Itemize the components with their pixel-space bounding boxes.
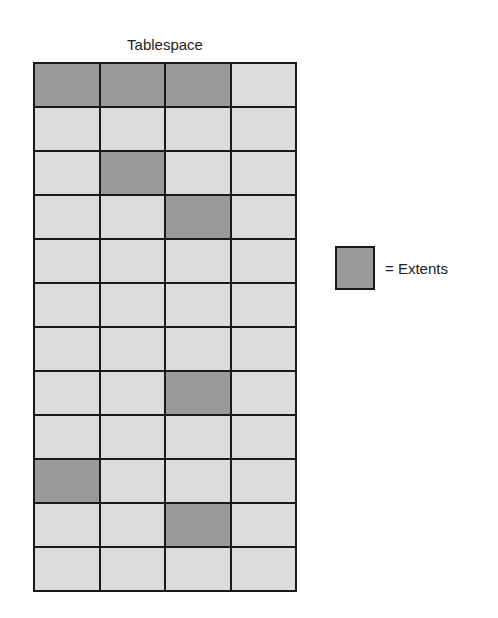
extent-cell: [166, 64, 230, 106]
empty-cell: [166, 152, 230, 194]
empty-cell: [166, 416, 230, 458]
empty-cell: [232, 416, 296, 458]
empty-cell: [232, 64, 296, 106]
extent-cell: [166, 504, 230, 546]
extent-swatch: [335, 246, 375, 290]
empty-cell: [232, 548, 296, 590]
empty-cell: [232, 504, 296, 546]
empty-cell: [101, 196, 165, 238]
empty-cell: [35, 108, 99, 150]
empty-cell: [101, 548, 165, 590]
empty-cell: [232, 284, 296, 326]
extent-cell: [101, 152, 165, 194]
legend-label: = Extents: [385, 260, 448, 277]
empty-cell: [101, 240, 165, 282]
empty-cell: [166, 548, 230, 590]
empty-cell: [101, 460, 165, 502]
extent-cell: [166, 372, 230, 414]
empty-cell: [35, 328, 99, 370]
empty-cell: [101, 372, 165, 414]
empty-cell: [232, 328, 296, 370]
empty-cell: [101, 284, 165, 326]
empty-cell: [35, 196, 99, 238]
empty-cell: [232, 196, 296, 238]
empty-cell: [166, 328, 230, 370]
empty-cell: [35, 416, 99, 458]
legend: = Extents: [335, 246, 448, 290]
empty-cell: [232, 108, 296, 150]
empty-cell: [101, 504, 165, 546]
empty-cell: [232, 372, 296, 414]
empty-cell: [35, 548, 99, 590]
extent-cell: [35, 460, 99, 502]
empty-cell: [166, 460, 230, 502]
empty-cell: [166, 108, 230, 150]
empty-cell: [35, 284, 99, 326]
empty-cell: [35, 152, 99, 194]
empty-cell: [232, 240, 296, 282]
extent-cell: [101, 64, 165, 106]
empty-cell: [35, 240, 99, 282]
extent-cell: [166, 196, 230, 238]
empty-cell: [101, 108, 165, 150]
tablespace-grid: [33, 62, 297, 592]
tablespace-title: Tablespace: [33, 36, 297, 53]
empty-cell: [232, 152, 296, 194]
empty-cell: [166, 284, 230, 326]
empty-cell: [101, 416, 165, 458]
empty-cell: [35, 372, 99, 414]
empty-cell: [232, 460, 296, 502]
empty-cell: [166, 240, 230, 282]
extent-cell: [35, 64, 99, 106]
empty-cell: [35, 504, 99, 546]
empty-cell: [101, 328, 165, 370]
